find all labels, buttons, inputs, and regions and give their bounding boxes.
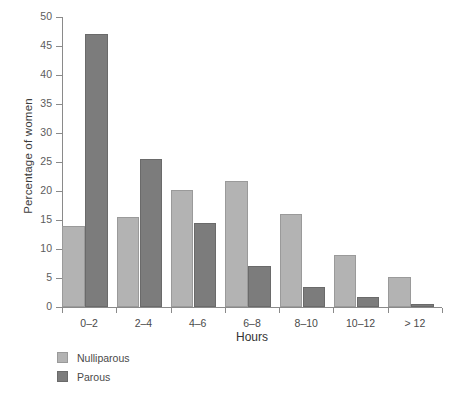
y-axis-tick: 10 [56,249,62,250]
bar-parous-4 [303,287,326,307]
y-axis-tick-label: 15 [22,213,52,225]
bar-nulliparous-1 [117,217,140,307]
y-axis-tick-label: 40 [22,68,52,80]
x-axis-tick-label: > 12 [404,317,425,329]
x-axis-tick-label: 10–12 [346,317,375,329]
y-axis-tick-label: 0 [22,300,52,312]
x-axis-tick-label: 6–8 [243,317,261,329]
y-axis-tick: 50 [56,17,62,18]
bar-parous-2 [194,223,217,307]
x-axis-tick [116,308,117,313]
x-axis-tick [388,308,389,313]
legend-item-nulliparous: Nulliparous [57,348,130,367]
bar-nulliparous-4 [280,214,303,307]
y-axis-tick: 5 [56,278,62,279]
y-axis-tick-label: 25 [22,155,52,167]
x-axis-tick [62,308,63,313]
bar-nulliparous-0 [62,226,85,307]
bar-parous-3 [248,266,271,307]
x-axis-title: Hours [62,330,442,344]
x-axis-tick [333,308,334,313]
x-axis-tick [279,308,280,313]
y-axis-tick: 30 [56,133,62,134]
bar-parous-0 [85,34,108,307]
x-axis-tick [225,308,226,313]
y-axis-tick: 35 [56,104,62,105]
y-axis-tick-label: 35 [22,97,52,109]
y-axis-tick-label: 30 [22,126,52,138]
y-axis-tick: 40 [56,75,62,76]
bar-parous-1 [140,159,163,307]
bar-parous-6 [411,304,434,307]
y-axis-tick-label: 20 [22,184,52,196]
y-axis-tick-label: 50 [22,10,52,22]
x-axis-tick-label: 8–10 [295,317,318,329]
bar-nulliparous-3 [225,181,248,307]
x-axis-tick [442,308,443,313]
y-axis-tick: 45 [56,46,62,47]
legend-label: Nulliparous [77,352,130,364]
y-axis-tick: 20 [56,191,62,192]
x-axis-tick-label: 2–4 [135,317,153,329]
x-axis-line [62,307,442,308]
plot-area: 05101520253035404550 0–22–44–66–88–1010–… [62,17,442,307]
legend-swatch-nulliparous [57,352,68,363]
bar-nulliparous-2 [171,190,194,307]
x-axis-tick-label: 0–2 [80,317,98,329]
bars-layer [63,17,442,307]
x-axis-tick [171,308,172,313]
legend-swatch-parous [57,371,68,382]
y-axis-tick-label: 45 [22,39,52,51]
y-axis-tick: 15 [56,220,62,221]
y-axis-tick-label: 5 [22,271,52,283]
legend-item-parous: Parous [57,367,130,386]
bar-nulliparous-6 [388,277,411,307]
legend-label: Parous [77,371,110,383]
bar-chart: Percentage of women 05101520253035404550… [0,0,460,399]
y-axis-tick-label: 10 [22,242,52,254]
bar-parous-5 [357,297,380,307]
y-axis-tick: 25 [56,162,62,163]
x-axis-tick-label: 4–6 [189,317,207,329]
chart-legend: NulliparousParous [57,348,130,386]
bar-nulliparous-5 [334,255,357,307]
